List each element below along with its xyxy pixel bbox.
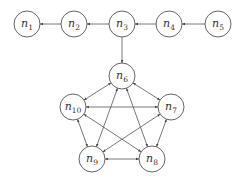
node-n6: n6	[109, 63, 135, 89]
node-n10: n10	[60, 94, 86, 120]
node-n8: n8	[139, 146, 165, 172]
edge-n6-n9	[96, 88, 117, 147]
edge-n10-n9	[77, 119, 87, 147]
node-n5: n5	[205, 11, 231, 37]
nodes-layer: n1n2n3n4n5n6n7n8n9n10	[14, 11, 231, 172]
node-n4: n4	[156, 11, 182, 37]
node-n7: n7	[158, 94, 184, 120]
edge-n6-n7	[133, 83, 160, 100]
node-n9: n9	[79, 146, 105, 172]
edge-n6-n8	[126, 88, 147, 147]
node-n3: n3	[109, 11, 135, 37]
node-n2: n2	[61, 11, 87, 37]
node-n1: n1	[14, 11, 40, 37]
edges-layer	[40, 24, 205, 159]
graph-canvas: n1n2n3n4n5n6n7n8n9n10	[0, 0, 245, 179]
edge-n7-n8	[156, 119, 166, 147]
edge-n6-n10	[84, 83, 111, 100]
